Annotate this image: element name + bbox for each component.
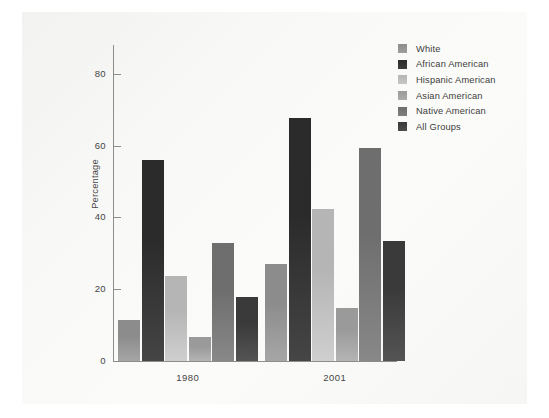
y-axis-tick: [113, 361, 121, 362]
bar: [142, 160, 164, 361]
legend-color-swatch: [398, 60, 407, 69]
bar: [383, 241, 405, 361]
y-axis-title: Percentage: [90, 159, 100, 209]
bar-plot-area: [113, 45, 403, 361]
legend-item: Asian American: [398, 88, 528, 104]
legend-item: Hispanic American: [398, 72, 528, 88]
bar: [189, 337, 211, 361]
legend-item-label: All Groups: [416, 122, 461, 132]
legend-item: White: [398, 41, 528, 57]
legend-item-label: Hispanic American: [416, 75, 496, 85]
legend-item-label: Native American: [416, 106, 486, 116]
bar: [212, 243, 234, 361]
bar: [336, 308, 358, 361]
legend-item-label: White: [416, 44, 441, 54]
x-axis-tick-label: 2001: [310, 372, 360, 383]
bar: [312, 209, 334, 361]
y-axis-tick-label: 0: [72, 355, 106, 366]
legend-item: Native American: [398, 103, 528, 119]
y-axis-tick-label: 60: [72, 140, 106, 151]
x-axis-line: [113, 361, 397, 362]
chart-legend: WhiteAfrican AmericanHispanic AmericanAs…: [398, 41, 528, 135]
bar: [236, 297, 258, 361]
y-axis-title-wrap: Percentage: [68, 175, 118, 193]
bar: [359, 148, 381, 361]
legend-item: African American: [398, 57, 528, 73]
legend-item-label: African American: [416, 59, 489, 69]
bar: [165, 276, 187, 361]
y-axis-tick-label: 80: [72, 68, 106, 79]
legend-color-swatch: [398, 75, 407, 84]
bar: [289, 118, 311, 361]
chart-page: 020406080 Percentage 19802001 WhiteAfric…: [0, 0, 549, 418]
bar: [118, 320, 140, 361]
legend-color-swatch: [398, 107, 407, 116]
y-axis-tick-label: 40: [72, 211, 106, 222]
y-axis-tick-label: 20: [72, 283, 106, 294]
legend-color-swatch: [398, 91, 407, 100]
legend-item-label: Asian American: [416, 91, 483, 101]
legend-item: All Groups: [398, 119, 528, 135]
legend-color-swatch: [398, 122, 407, 131]
bar: [265, 264, 287, 361]
legend-color-swatch: [398, 44, 407, 53]
x-axis-tick-label: 1980: [163, 372, 213, 383]
